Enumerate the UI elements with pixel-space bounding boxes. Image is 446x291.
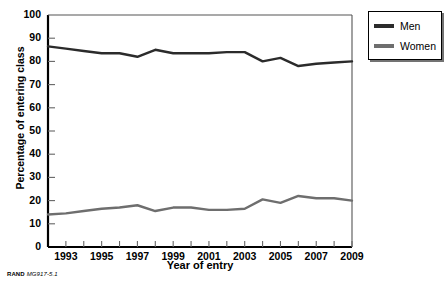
legend-label-women: Women [400,41,436,52]
figure-footer: RANDMG917-5.1 [7,271,58,277]
axes [48,15,352,247]
data-series [48,46,352,214]
legend-label-men: Men [400,21,420,32]
y-axis-title: Percentage of entering class [14,23,26,213]
series-line-women [48,196,352,215]
chart-figure: 0102030405060708090100 19931995199719992… [0,0,446,291]
legend-swatch-men [374,24,394,27]
series-line-men [48,46,352,66]
legend-swatch-women [374,44,394,47]
footer-source: RAND [7,271,25,277]
y-tick-label-10: 10 [15,218,41,229]
x-axis-title: Year of entry [48,259,352,271]
legend-item-women: Women [374,36,441,56]
chart-legend: Men Women [368,11,442,60]
footer-figure-code: MG917-5.1 [27,271,58,277]
y-tick-label-0: 0 [15,241,41,252]
legend-item-men: Men [374,16,441,36]
y-tick-label-100: 100 [15,9,41,20]
